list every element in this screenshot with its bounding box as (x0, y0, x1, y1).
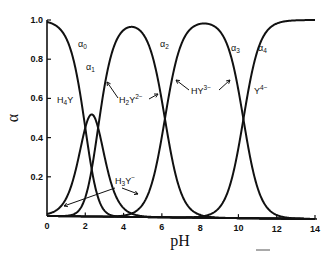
label-alpha3: α3 (231, 43, 240, 54)
label-H4Y: H4Y (57, 95, 73, 106)
y-tick-label: 0.2 (30, 172, 43, 182)
label-H2Y2: H2Y2− (119, 93, 143, 106)
y-tick-label: 1.0 (30, 15, 43, 25)
x-tick-label: 6 (159, 222, 164, 232)
arrow-H3Y-left (64, 188, 115, 206)
y-tick-label: 0.4 (30, 133, 43, 143)
x-tick-label: 4 (121, 222, 126, 232)
x-tick-label: 12 (272, 224, 282, 234)
arrow-HY3-right (219, 80, 230, 90)
x-tick-label: 14 (310, 224, 320, 234)
y-axis-title: α (4, 113, 21, 122)
label-H3Y: H3Y− (115, 174, 135, 187)
x-tick-label: 10 (233, 223, 243, 233)
arrow-H2Y2-left (107, 82, 118, 98)
x-tick-label: 2 (83, 221, 88, 231)
y-tick-label: 0.8 (30, 54, 43, 64)
series-line-α1 (47, 114, 315, 219)
x-tick-label: 8 (198, 223, 203, 233)
label-alpha2: α2 (160, 39, 169, 50)
chart: 024681012140.20.40.60.81.0 α0α1α2α3α4H4Y… (0, 0, 328, 262)
y-tick-label: 0.6 (30, 93, 43, 103)
label-HY3: HY3− (191, 84, 211, 96)
x-axis-title: pH (170, 232, 190, 250)
label-alpha1: α1 (86, 62, 95, 73)
label-Y4: Y4− (254, 84, 268, 96)
arrow-HY3-left (176, 80, 189, 90)
x-tick-label: 0 (44, 221, 49, 231)
label-alpha4: α4 (258, 43, 267, 54)
label-alpha0: α0 (78, 39, 87, 50)
